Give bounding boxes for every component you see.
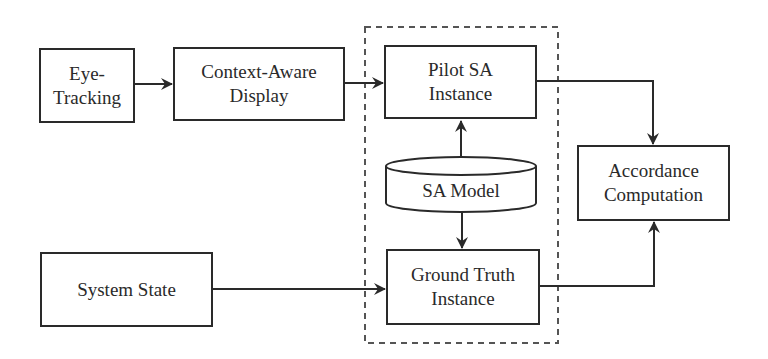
ground-truth-instance-node: Ground TruthInstance bbox=[386, 249, 540, 325]
system-state-node: System State bbox=[40, 252, 213, 327]
accordance-label-2: Computation bbox=[604, 183, 703, 207]
pilot-label-1: Pilot SA bbox=[428, 58, 493, 82]
system-state-label: System State bbox=[77, 278, 176, 302]
ground-truth-label-2: Instance bbox=[411, 287, 515, 311]
eye-tracking-node: Eye-Tracking bbox=[39, 48, 135, 123]
context-label-1: Context-Aware bbox=[201, 60, 316, 84]
arrow-pilot-to-accordance bbox=[537, 81, 653, 144]
eye-tracking-label-2: Tracking bbox=[53, 86, 121, 110]
pilot-sa-instance-node: Pilot SAInstance bbox=[384, 45, 537, 119]
sa-model-label: SA Model bbox=[386, 176, 536, 206]
context-label-2: Display bbox=[201, 84, 316, 108]
accordance-computation-node: AccordanceComputation bbox=[577, 145, 730, 221]
pilot-label-2: Instance bbox=[428, 82, 493, 106]
context-aware-display-node: Context-AwareDisplay bbox=[173, 47, 345, 121]
ground-truth-label-1: Ground Truth bbox=[411, 263, 515, 287]
eye-tracking-label-1: Eye- bbox=[53, 62, 121, 86]
accordance-label-1: Accordance bbox=[604, 159, 703, 183]
